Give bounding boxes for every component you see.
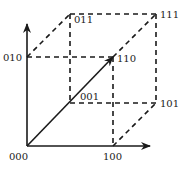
vertex-label-000: 000 <box>9 151 28 162</box>
edge-110-111 <box>113 14 156 57</box>
vertex-label-010: 010 <box>3 52 22 63</box>
vertex-label-101: 101 <box>160 98 179 109</box>
vertex-label-001: 001 <box>80 91 99 102</box>
edge-100-101 <box>113 103 156 146</box>
vertex-label-011: 011 <box>74 14 93 25</box>
edge-010-011 <box>27 14 70 57</box>
vertex-label-110: 110 <box>117 53 136 64</box>
vertex-labels: 000100010110001101011111 <box>3 9 179 162</box>
vertex-label-111: 111 <box>160 9 179 20</box>
vertex-label-100: 100 <box>103 151 122 162</box>
unit-cube-diagram: 000100010110001101011111 <box>0 0 183 169</box>
